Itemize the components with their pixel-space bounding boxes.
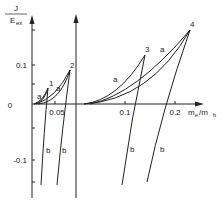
branch-label-a: a	[56, 84, 61, 93]
svg-text:e: e	[195, 112, 198, 118]
curve-4-branch-a-lower	[90, 30, 190, 104]
svg-text:m: m	[188, 108, 195, 117]
peak-label-4: 4	[190, 20, 195, 29]
x-axis-arrow-icon	[195, 102, 204, 107]
branch-label-a: a	[160, 45, 165, 54]
y-axis-label: J E ex	[5, 4, 27, 26]
y-axis-left	[30, 15, 36, 198]
peak-label-3: 3	[145, 45, 150, 54]
x-tick-label: 0.05	[49, 108, 65, 117]
svg-text:/m: /m	[199, 108, 208, 117]
branch-label-a: a	[37, 92, 42, 101]
branch-label-b: b	[130, 145, 135, 154]
branch-label-b: b	[160, 145, 165, 154]
y-tick-label: 0.1	[16, 61, 28, 70]
svg-text:E: E	[10, 16, 15, 25]
svg-text:h: h	[213, 112, 216, 118]
branch-label-a: a	[113, 75, 118, 84]
curve-4-branch-b	[147, 30, 190, 182]
peak-label-1: 1	[49, 79, 54, 88]
svg-text:ex: ex	[16, 20, 22, 26]
y-axis-right	[74, 14, 79, 198]
y-tick-label: 0	[8, 101, 13, 110]
branch-label-b: b	[62, 146, 67, 155]
branch-label-b: b	[46, 146, 51, 155]
svg-text:J: J	[14, 4, 18, 13]
peak-label-2: 2	[70, 61, 75, 70]
y-axis-arrow-icon	[74, 14, 79, 23]
x-axis-label: m e /m h	[188, 108, 216, 118]
chart: J E ex 0.1 0 -0.1 0.05 0.1 0.2 m e	[0, 0, 223, 201]
x-tick-label: 0.2	[169, 108, 181, 117]
curve-3-branch-b	[122, 55, 145, 185]
y-axis-arrow-icon	[30, 15, 35, 24]
x-tick-label: 0.1	[119, 108, 131, 117]
y-tick-label: -0.1	[13, 156, 27, 165]
x-axis	[32, 101, 204, 107]
